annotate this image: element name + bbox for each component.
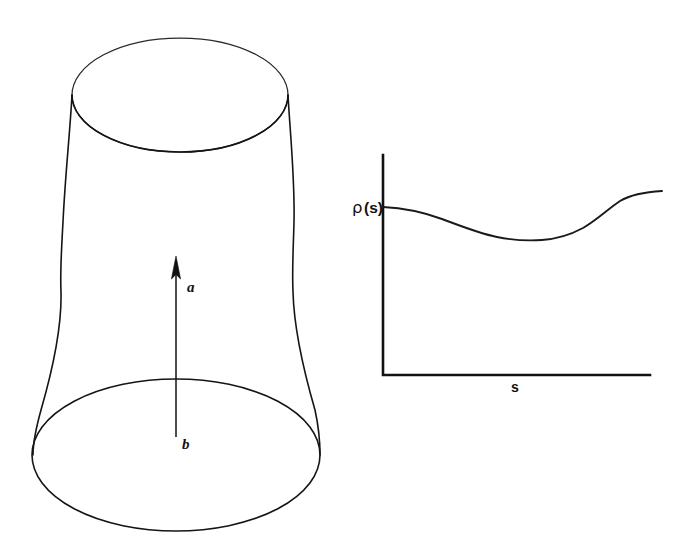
rho-argument: (s) (364, 199, 383, 216)
figure-canvas: a b ρ(s) s (0, 0, 696, 554)
y-axis-label: ρ(s) (352, 198, 383, 217)
figure-root: a b ρ(s) s (0, 0, 696, 554)
vector-b-label: b (182, 436, 190, 452)
solid-panel: a b (32, 38, 320, 531)
vector-a-label: a (187, 279, 195, 295)
plot-axes (383, 155, 650, 375)
plot-panel: ρ(s) s (352, 155, 662, 395)
rho-curve (383, 191, 662, 240)
x-axis-label: s (511, 379, 519, 395)
rho-symbol: ρ (352, 198, 362, 217)
